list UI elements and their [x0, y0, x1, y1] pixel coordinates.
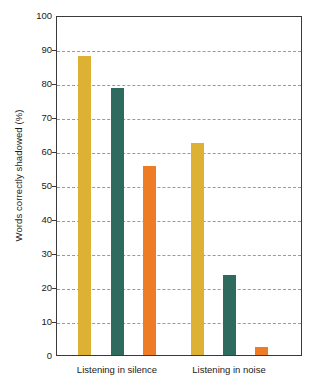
plot-area [56, 16, 302, 356]
y-tick-label-80: 80 [24, 79, 52, 89]
y-tick-label-40: 40 [24, 215, 52, 225]
y-tick-label-90: 90 [24, 45, 52, 55]
y-tick-label-70: 70 [24, 113, 52, 123]
bar-noise-series-3[interactable] [255, 347, 268, 356]
bar-noise-series-1[interactable] [191, 143, 204, 356]
y-tick-label-100: 100 [24, 11, 52, 21]
y-tick-label-10: 10 [24, 317, 52, 327]
bar-noise-series-2[interactable] [223, 275, 236, 355]
bar-chart: Words correctly shadowed (%) 100 90 80 7… [0, 0, 309, 386]
y-tick-label-0: 0 [24, 351, 52, 361]
bar-silence-series-3[interactable] [143, 166, 156, 355]
y-tick-label-50: 50 [24, 181, 52, 191]
bars-layer [57, 17, 301, 355]
y-tick-label-30: 30 [24, 249, 52, 259]
y-tick-label-20: 20 [24, 283, 52, 293]
bar-silence-series-2[interactable] [111, 88, 124, 355]
x-axis-label-listening-in-silence: Listening in silence [77, 364, 157, 375]
bar-silence-series-1[interactable] [78, 56, 91, 355]
y-axis-tick-labels: 100 90 80 70 60 50 40 30 20 10 0 [19, 0, 52, 386]
y-tick-label-60: 60 [24, 147, 52, 157]
x-axis-label-listening-in-noise: Listening in noise [192, 364, 265, 375]
